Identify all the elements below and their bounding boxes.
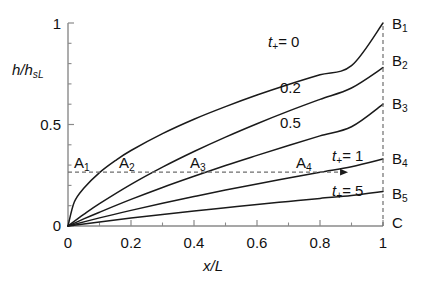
point-label-A2-letter: A (119, 154, 129, 171)
point-label-A4-sub: 4 (306, 162, 312, 173)
curve-label-t5-eq: = 5 (342, 182, 363, 199)
y-axis-label-sub: sL (33, 69, 44, 80)
end-label-B3-sub: 3 (402, 103, 408, 114)
point-label-A1-sub: 1 (84, 162, 90, 173)
y-tick-label-0: 0 (33, 218, 61, 233)
x-axis-label: x/L (203, 258, 223, 273)
x-tick-label-1: 1 (363, 235, 403, 250)
y-axis-label-main: h/h (12, 61, 33, 78)
point-label-A3-letter: A (190, 154, 200, 171)
end-label-B4: B4 (392, 151, 408, 169)
curve-label-t5: t+= 5 (332, 183, 363, 201)
end-label-B1-sub: 1 (402, 23, 408, 34)
point-label-A2-sub: 2 (129, 162, 135, 173)
y-tick-label-0.5: 0.5 (23, 117, 61, 132)
point-label-A2: A2 (119, 155, 135, 173)
point-label-A1: A1 (74, 155, 90, 173)
x-tick-label-0.8: 0.8 (300, 235, 340, 250)
end-label-B3: B3 (392, 96, 408, 114)
end-label-B1: B1 (392, 16, 408, 34)
end-label-C: C (392, 215, 403, 230)
end-label-B1-letter: B (392, 15, 402, 32)
end-label-B5-letter: B (392, 185, 402, 202)
curve-label-t1: t+= 1 (332, 148, 363, 166)
curve-label-02: 0.2 (280, 80, 301, 95)
end-label-B4-sub: 4 (402, 158, 408, 169)
x-tick-label-0: 0 (48, 235, 88, 250)
end-label-B2: B2 (392, 53, 408, 71)
point-label-A3-sub: 3 (200, 162, 206, 173)
point-label-A1-letter: A (74, 154, 84, 171)
point-label-A3: A3 (190, 155, 206, 173)
x-tick-label-0.6: 0.6 (237, 235, 277, 250)
curve-label-t0-eq: = 0 (278, 33, 299, 50)
x-tick-label-0.4: 0.4 (174, 235, 214, 250)
end-label-B2-letter: B (392, 52, 402, 69)
y-axis-label: h/hsL (12, 62, 44, 80)
reference-line-arrowhead (340, 169, 348, 176)
curve-label-t1-eq: = 1 (342, 147, 363, 164)
curve-label-05: 0.5 (280, 115, 301, 130)
y-tick-label-1: 1 (33, 16, 61, 31)
end-label-B5-sub: 5 (402, 193, 408, 204)
end-label-B3-letter: B (392, 95, 402, 112)
end-label-B4-letter: B (392, 150, 402, 167)
end-label-B2-sub: 2 (402, 60, 408, 71)
x-tick-label-0.2: 0.2 (111, 235, 151, 250)
point-label-A4-letter: A (296, 154, 306, 171)
figure-root: h/hsL x/L 1 0.5 0 0 0.2 0.4 0.6 0.8 1 t+… (0, 0, 426, 282)
point-label-A4: A4 (296, 155, 312, 173)
curve-label-t0: t+= 0 (268, 34, 299, 52)
end-label-B5: B5 (392, 186, 408, 204)
